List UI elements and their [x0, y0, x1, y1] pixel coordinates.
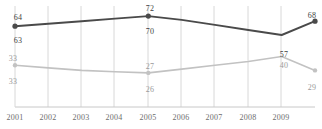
x-axis-tick-labels: 2001 2002 2003 2004 2005 2006 2007 2008 … — [0, 111, 322, 129]
data-label-light-2009-above: 40 — [280, 61, 288, 70]
x-tick-2004: 2004 — [106, 113, 123, 122]
x-tick-2008: 2008 — [240, 113, 257, 122]
x-tick-2006: 2006 — [173, 113, 190, 122]
data-label-dark-2005-above: 72 — [146, 4, 154, 13]
data-label-light-2001-above: 33 — [9, 54, 17, 63]
light-series-start-marker — [13, 63, 17, 67]
line-chart: 64 63 72 70 57 68 33 33 27 26 40 29 2001… — [0, 0, 322, 129]
data-label-dark-2001-above: 64 — [14, 13, 22, 22]
light-series-end-marker — [313, 68, 317, 72]
x-tick-2003: 2003 — [73, 113, 90, 122]
light-series-trough-marker — [146, 71, 150, 75]
dark-series-start-marker — [12, 24, 17, 29]
data-label-light-2005-above: 27 — [146, 62, 154, 71]
data-label-light-2001-below: 33 — [9, 77, 17, 86]
x-tick-2005: 2005 — [140, 113, 157, 122]
x-tick-2002: 2002 — [40, 113, 57, 122]
x-tick-2001: 2001 — [7, 113, 24, 122]
data-label-dark-2009-below: 57 — [280, 50, 288, 59]
data-label-dark-2001-below: 63 — [14, 36, 22, 45]
data-label-dark-2005-below: 70 — [146, 27, 154, 36]
data-label-light-2010-below: 29 — [308, 83, 316, 92]
x-tick-2009: 2009 — [273, 113, 290, 122]
dark-series-line — [15, 16, 315, 35]
dark-series-peak-marker — [146, 14, 151, 19]
data-label-dark-2010-above: 68 — [308, 11, 316, 20]
x-tick-2007: 2007 — [206, 113, 223, 122]
chart-plot-area — [0, 0, 322, 129]
light-series-line — [15, 57, 315, 73]
data-label-light-2005-below: 26 — [146, 85, 154, 94]
